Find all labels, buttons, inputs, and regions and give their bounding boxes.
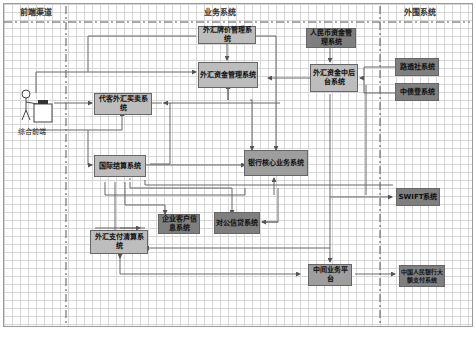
system-rmb-fund[interactable]: 人民币资金管理系统: [306, 28, 356, 48]
system-ccdc[interactable]: 中债登系统: [395, 83, 439, 101]
system-fx-fund[interactable]: 外汇资金管理系统: [198, 62, 258, 88]
lane-title-business: 业务系统: [204, 6, 236, 17]
system-pboc-hvps[interactable]: 中国人民银行大额支付系统: [399, 265, 445, 287]
system-middle-platform[interactable]: 中间业务平台: [308, 264, 352, 286]
lane-title-external: 外围系统: [404, 6, 436, 17]
system-swift[interactable]: SWIFT系统: [396, 188, 440, 206]
lane-title-front: 前端渠道: [20, 6, 52, 17]
system-intl-settlement[interactable]: 国际结算系统: [94, 155, 146, 177]
system-reuters[interactable]: 路透社系统: [395, 58, 439, 76]
system-core-banking[interactable]: 银行核心业务系统: [244, 150, 308, 176]
system-fx-trading[interactable]: 代客外汇买卖系统: [94, 93, 152, 115]
system-fx-rate[interactable]: 外汇牌价管理系统: [198, 26, 256, 44]
connector-lines: [0, 0, 476, 350]
system-fx-payment[interactable]: 外汇支付清算系统: [90, 230, 148, 254]
system-corp-customer[interactable]: 企业客户信息系统: [158, 214, 200, 234]
system-fx-backoffice[interactable]: 外汇资金中后台系统: [310, 64, 358, 92]
system-corp-credit[interactable]: 对公信贷系统: [214, 212, 260, 234]
person-at-desk-icon: [16, 88, 56, 124]
actor-label: 综合前端: [18, 126, 46, 136]
